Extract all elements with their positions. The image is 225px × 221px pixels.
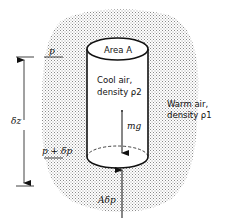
- pressure-force-label: Aδp: [97, 195, 116, 205]
- bottom-pressure-label: p + δp: [42, 146, 72, 156]
- weight-label: mg: [127, 121, 142, 131]
- area-label: Area A: [104, 45, 132, 55]
- buoyancy-diagram: Area A Cool air, density ρ2 mg Warm air,…: [0, 0, 225, 221]
- height-label: δz: [11, 116, 21, 126]
- cool-air-label: Cool air,: [97, 75, 132, 85]
- warm-air-label: Warm air,: [167, 99, 208, 109]
- cool-air-density-label: density ρ2: [97, 87, 142, 97]
- cool-air-column: [87, 49, 148, 168]
- warm-air-density-label: density ρ1: [167, 110, 212, 120]
- top-pressure-label: p: [49, 46, 55, 56]
- center-of-mass-dot: [121, 110, 123, 112]
